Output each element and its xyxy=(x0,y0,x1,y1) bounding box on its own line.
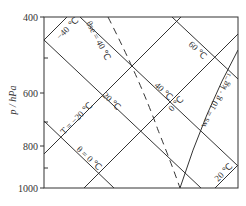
y-tick-800: 800 xyxy=(23,141,38,152)
y-tick-1000: 1000 xyxy=(18,183,38,194)
label-dry-adiabat-0: θ = 0 ℃ xyxy=(75,144,104,172)
label-isotherm-minus40: −40 ℃ xyxy=(54,16,80,42)
y-tick-400: 400 xyxy=(23,12,38,23)
label-dry-adiabat-60: 60 ℃ xyxy=(187,39,209,61)
thermodynamic-diagram: 400 600 800 1000 p / hPa −40 ℃ T = −20 ℃… xyxy=(0,0,246,206)
label-mixing-ratio: ws = 10 g · kg⁻¹ xyxy=(198,71,235,129)
y-tick-600: 600 xyxy=(23,88,38,99)
label-dry-adiabat-40: 40 ℃ xyxy=(153,80,175,102)
label-isotherm-minus20: T = −20 ℃ xyxy=(58,100,94,136)
y-axis-title: p / hPa xyxy=(7,86,18,116)
label-dry-adiabat-20: 20 ℃ xyxy=(101,90,123,112)
label-moist-adiabat: θse = 40 ℃ xyxy=(84,19,113,61)
dry-adiabat-20 xyxy=(44,40,201,188)
